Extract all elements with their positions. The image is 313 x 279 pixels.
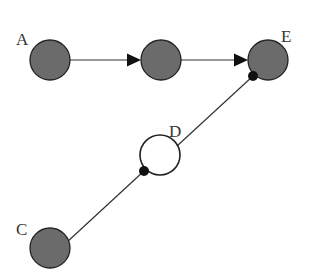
edge-c-to-d <box>66 171 144 243</box>
node-e-label: E <box>281 27 291 46</box>
node-d-label: D <box>169 122 181 141</box>
node-a <box>30 40 70 80</box>
node-a-label: A <box>16 30 29 49</box>
node-b <box>141 40 181 80</box>
node-c-label: C <box>16 220 27 239</box>
graph-diagram: A E D C <box>0 0 313 279</box>
connection-dot-d <box>139 166 149 176</box>
node-c <box>30 228 70 268</box>
arrowhead-icon <box>234 54 248 67</box>
arrowhead-icon <box>127 54 141 67</box>
connection-dot-e <box>248 71 258 81</box>
edge-d-to-e <box>177 76 253 146</box>
